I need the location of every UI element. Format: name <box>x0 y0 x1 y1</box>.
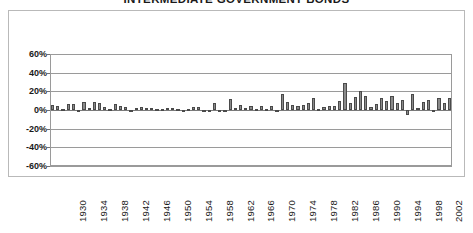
bar <box>317 109 320 111</box>
bar <box>244 108 247 110</box>
bar <box>161 109 164 111</box>
bar <box>88 108 91 110</box>
x-axis-tick-label: 1982 <box>349 200 360 222</box>
bar <box>375 104 378 110</box>
bar <box>432 110 435 112</box>
x-axis-tick-label: 1934 <box>98 200 109 222</box>
bar <box>166 108 169 110</box>
x-axis-tick-label: 1998 <box>433 200 444 222</box>
bar <box>302 105 305 110</box>
bar-series <box>50 54 452 166</box>
x-axis-tick-label: 1954 <box>203 200 214 222</box>
bar <box>124 107 127 110</box>
bar <box>187 109 190 111</box>
bar <box>155 109 158 111</box>
bar <box>281 94 284 110</box>
bar <box>364 96 367 110</box>
x-axis-tick-label: 1958 <box>224 200 235 222</box>
bar <box>328 106 331 110</box>
bar <box>401 100 404 110</box>
bar <box>249 106 252 110</box>
bar <box>223 110 226 112</box>
bar <box>270 106 273 110</box>
bar <box>443 103 446 110</box>
bar <box>396 103 399 110</box>
x-axis-tick-label: 1986 <box>370 200 381 222</box>
bar <box>56 106 59 110</box>
bar <box>275 110 278 112</box>
x-axis-tick-label: 1970 <box>286 200 297 222</box>
bar <box>229 99 232 110</box>
bar <box>93 102 96 110</box>
bar <box>108 109 111 111</box>
bar <box>385 101 388 110</box>
x-axis-tick-label: 1938 <box>119 200 130 222</box>
bond-returns-chart: INTERMEDIATE GOVERNMENT BONDS 60%40%20%0… <box>0 0 473 233</box>
x-axis-tick-label: 1994 <box>412 200 423 222</box>
bar <box>150 108 153 110</box>
x-axis-tick-label: 1950 <box>182 200 193 222</box>
bar <box>265 109 268 111</box>
bar <box>77 110 80 112</box>
bar <box>103 107 106 110</box>
bar <box>202 110 205 112</box>
bar <box>182 110 185 112</box>
bar <box>343 83 346 110</box>
bar <box>448 98 451 110</box>
bar <box>218 110 221 112</box>
bar <box>119 106 122 110</box>
bar <box>380 98 383 110</box>
bar <box>171 108 174 110</box>
bar <box>333 106 336 110</box>
x-axis-tick-label: 1966 <box>265 200 276 222</box>
bar <box>129 110 132 112</box>
bar <box>51 105 54 110</box>
bar <box>234 108 237 110</box>
bar <box>114 104 117 110</box>
chart-title: INTERMEDIATE GOVERNMENT BONDS <box>0 0 473 5</box>
bar <box>416 108 419 110</box>
x-axis-tick-label: 1974 <box>307 200 318 222</box>
bar <box>239 105 242 110</box>
x-axis-tick-label: 1962 <box>245 200 256 222</box>
y-axis-ticks <box>0 54 50 166</box>
bar <box>354 97 357 110</box>
bar <box>192 107 195 110</box>
bar <box>369 107 372 110</box>
bar <box>390 96 393 110</box>
x-axis-tick-label: 1942 <box>140 200 151 222</box>
x-axis-tick-label: 1978 <box>328 200 339 222</box>
bar <box>307 103 310 110</box>
x-axis-tick-label: 1930 <box>77 200 88 222</box>
x-axis-tick-label: 1946 <box>161 200 172 222</box>
gridline <box>50 166 452 167</box>
x-axis-tick-label: 2002 <box>453 200 464 222</box>
bar <box>208 110 211 112</box>
chart-title-container: INTERMEDIATE GOVERNMENT BONDS <box>0 0 473 9</box>
bar <box>291 105 294 110</box>
bar <box>406 110 409 115</box>
bar <box>67 104 70 110</box>
bar <box>213 103 216 110</box>
bar <box>437 98 440 110</box>
bar <box>98 103 101 110</box>
bar <box>82 102 85 110</box>
bar <box>296 106 299 110</box>
bar <box>286 102 289 110</box>
bar <box>145 108 148 110</box>
bar <box>140 107 143 110</box>
x-axis-tick-label: 1990 <box>391 200 402 222</box>
bar <box>338 101 341 110</box>
bar <box>135 108 138 110</box>
bar <box>312 98 315 110</box>
bar <box>260 106 263 110</box>
x-axis-labels: 1930193419381942194619501954195819621966… <box>50 180 452 233</box>
bar <box>61 109 64 111</box>
bar <box>349 103 352 110</box>
bar <box>72 104 75 110</box>
bar <box>411 94 414 110</box>
bar <box>176 109 179 111</box>
bar <box>422 102 425 110</box>
bar <box>255 109 258 111</box>
bar <box>427 100 430 110</box>
